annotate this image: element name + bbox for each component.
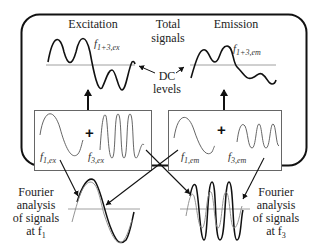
fourier-right-2: analysis [257, 198, 296, 212]
plus-excitation: + [85, 124, 94, 141]
emission-label: Emission [214, 17, 259, 31]
total-signals-label-2: signals [151, 31, 185, 45]
f13ex-label: f1+3,ex [94, 37, 120, 52]
lockin-fourier-diagram: Excitation Total signals Emission f1+3,e… [0, 0, 312, 249]
fourier-right-4: at f3 [266, 224, 286, 240]
fourier-left-1: Fourier [18, 185, 53, 199]
fourier-left-3: of signals [13, 211, 60, 225]
fourier-left-2: analysis [17, 198, 56, 212]
plus-emission: + [217, 121, 226, 138]
f13em-label: f1+3,em [233, 42, 261, 57]
fourier-right-3: of signals [253, 211, 300, 225]
excitation-total-signal [46, 39, 135, 91]
fourier-left-4: at f1 [26, 224, 46, 240]
total-signals-label-1: Total [156, 17, 181, 31]
excitation-label: Excitation [68, 17, 117, 31]
fourier-f3-plot [180, 182, 250, 240]
fourier-f1-plot [68, 179, 140, 243]
fourier-right-1: Fourier [258, 185, 293, 199]
dc-arrow-left [139, 66, 155, 73]
dc-arrow-right [176, 67, 184, 73]
dc-label-1: DC [159, 69, 176, 83]
dc-label-2: levels [153, 82, 181, 96]
